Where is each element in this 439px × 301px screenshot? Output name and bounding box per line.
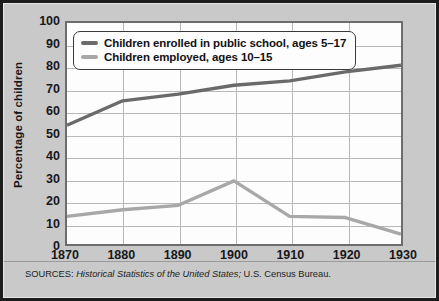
chart-legend: Children enrolled in public school, ages… (73, 31, 356, 70)
legend-swatch-icon (81, 41, 98, 46)
x-tick-label: 1910 (276, 248, 304, 262)
y-tick-label: 20 (46, 194, 60, 208)
source-note: SOURCES: Historical Statistics of the Un… (25, 269, 331, 279)
x-tick-label: 1930 (389, 248, 417, 262)
legend-label: Children employed, ages 10–15 (104, 51, 272, 63)
y-tick-label: 80 (46, 59, 60, 73)
source-prefix: SOURCES: (25, 269, 76, 279)
source-note-area: SOURCES: Historical Statistics of the Un… (3, 261, 436, 301)
legend-entry: Children employed, ages 10–15 (81, 50, 346, 64)
legend-label: Children enrolled in public school, ages… (104, 37, 346, 49)
source-publisher: U.S. Census Bureau. (241, 269, 331, 279)
source-title: Historical Statistics of the United Stat… (76, 269, 241, 279)
y-tick-label: 40 (46, 149, 60, 163)
x-tick-label: 1920 (333, 248, 361, 262)
x-tick-label: 1890 (164, 248, 192, 262)
y-tick-label: 50 (46, 127, 60, 141)
chart-figure: Percentage of children 01020304050607080… (0, 0, 439, 301)
y-axis-title-label: Percentage of children (12, 61, 24, 187)
series-line-2 (67, 181, 401, 234)
series-line-1 (67, 65, 401, 125)
x-tick-label: 1880 (107, 248, 135, 262)
y-tick-label: 10 (46, 217, 60, 231)
y-tick-label: 100 (39, 14, 60, 28)
x-tick-label: 1900 (220, 248, 248, 262)
legend-entry: Children enrolled in public school, ages… (81, 36, 346, 50)
x-tick-label: 1870 (51, 248, 79, 262)
y-tick-label: 30 (46, 172, 60, 186)
y-tick-label: 60 (46, 104, 60, 118)
legend-swatch-icon (81, 55, 98, 60)
y-tick-label: 90 (46, 37, 60, 51)
y-tick-label: 70 (46, 82, 60, 96)
y-axis-title: Percentage of children (5, 3, 31, 246)
y-axis-tick-labels: 0102030405060708090100 (29, 3, 63, 265)
